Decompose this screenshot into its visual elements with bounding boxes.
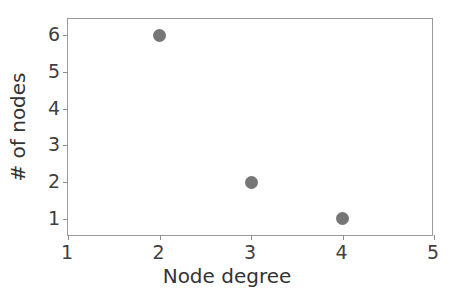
x-axis-tick-label: 4 [335, 243, 347, 262]
x-axis-tick-label: 1 [61, 243, 73, 262]
x-axis-tick [68, 235, 69, 240]
y-axis-tick [63, 72, 68, 73]
y-axis-label-container: # of nodes [0, 0, 36, 254]
x-axis-label: Node degree [0, 264, 454, 288]
y-axis-label: # of nodes [8, 72, 28, 181]
x-axis-tick [160, 235, 161, 240]
y-axis-tick-label: 1 [48, 208, 60, 227]
x-axis-tick-label: 2 [152, 243, 164, 262]
y-axis-tick [63, 182, 68, 183]
y-axis-tick [63, 35, 68, 36]
y-axis-tick-label: 3 [48, 135, 60, 154]
y-axis-tick-label: 5 [48, 62, 60, 81]
plot-area [67, 18, 433, 236]
data-point [336, 212, 349, 225]
y-axis-tick-label: 2 [48, 172, 60, 191]
x-axis-tick [343, 235, 344, 240]
chart-figure: # of nodes 123456 12345 Node degree [0, 0, 454, 291]
y-axis-tick [63, 145, 68, 146]
y-axis-tick-label: 6 [48, 25, 60, 44]
x-axis-tick-label: 3 [244, 243, 256, 262]
y-axis-tick-labels: 123456 [38, 18, 60, 236]
y-axis-tick-label: 4 [48, 98, 60, 117]
x-axis-tick-label: 5 [427, 243, 439, 262]
y-axis-tick [63, 219, 68, 220]
y-axis-tick [63, 109, 68, 110]
data-point [153, 29, 166, 42]
x-axis-tick [251, 235, 252, 240]
data-point [245, 176, 258, 189]
x-axis-tick [434, 235, 435, 240]
